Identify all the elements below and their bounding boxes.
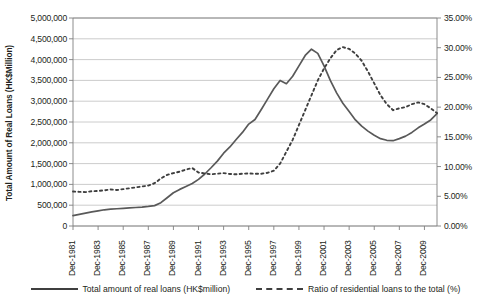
- legend-swatch-solid-line-icon: [31, 288, 78, 290]
- plot-area: [0, 0, 491, 302]
- chart-legend: Total amount of real loans (HK$million) …: [0, 278, 491, 300]
- legend-label-total-loans: Total amount of real loans (HK$million): [83, 284, 231, 294]
- legend-swatch-dashed-line-icon: [256, 288, 303, 290]
- legend-item-residential-ratio: Ratio of residential loans to the total …: [256, 284, 460, 294]
- legend-label-residential-ratio: Ratio of residential loans to the total …: [308, 284, 460, 294]
- legend-item-total-loans: Total amount of real loans (HK$million): [31, 284, 231, 294]
- chart-figure: Total Amount of Real Loans (HK$Million) …: [0, 0, 491, 302]
- series-line-total-loans: [73, 49, 437, 215]
